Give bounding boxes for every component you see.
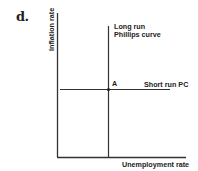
long-run-label-line2: Phillips curve [114, 30, 161, 39]
point-a-label: A [112, 79, 117, 88]
point-a-marker [107, 88, 110, 91]
short-run-label: Short run PC [144, 80, 188, 89]
y-axis-label: Inflation rate [47, 8, 56, 51]
x-axis-label: Unemployment rate [122, 160, 189, 169]
phillips-curve-diagram: Inflation rate Unemployment rate Long ru… [0, 0, 198, 171]
